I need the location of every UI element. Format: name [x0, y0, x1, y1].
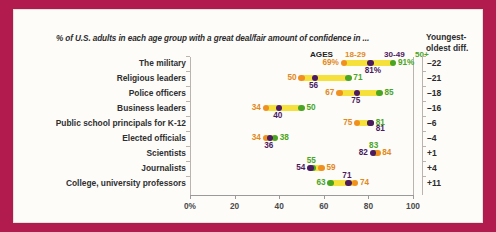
diff-tick — [422, 101, 426, 102]
y-tick — [186, 116, 190, 117]
value-label-18-29: 84 — [382, 148, 391, 157]
value-label-30-49: 81 — [376, 124, 385, 133]
chart-title: % of U.S. adults in each age group with … — [56, 33, 426, 44]
dot-18-29 — [298, 75, 304, 81]
diff-value: –6 — [427, 118, 436, 128]
chart-card: % of U.S. adults in each age group with … — [13, 9, 483, 223]
range-connector — [266, 105, 302, 110]
value-label-18-29: 34 — [239, 103, 261, 112]
category-label: Scientists — [146, 148, 186, 158]
category-label: Public school principals for K-12 — [56, 118, 186, 128]
diff-value: +4 — [427, 163, 437, 173]
poster-frame: % of U.S. adults in each age group with … — [0, 0, 496, 232]
value-label-18-29: 67 — [312, 88, 334, 97]
diff-tick — [422, 71, 426, 72]
category-label: Elected officials — [122, 133, 186, 143]
value-label-30-49: 54 — [283, 163, 305, 172]
x-tick-label: 0% — [170, 201, 210, 211]
diff-header-line1: Youngest- — [426, 32, 466, 42]
y-axis-right-line — [413, 57, 414, 195]
dot-18-29 — [318, 165, 324, 171]
diff-tick — [422, 86, 426, 87]
value-label-50plus: 83 — [369, 141, 378, 150]
range-connector — [302, 75, 349, 80]
x-tick — [190, 195, 191, 199]
diff-value: +11 — [427, 178, 441, 188]
category-label: Business leaders — [117, 103, 186, 113]
x-tick — [324, 195, 325, 199]
value-label-50plus: 91% — [398, 58, 414, 67]
dot-50plus — [345, 75, 351, 81]
diff-tick — [422, 131, 426, 132]
y-tick — [186, 86, 190, 87]
category-label: Journalists — [141, 163, 186, 173]
x-tick-label: 60 — [304, 201, 344, 211]
diff-value: –18 — [427, 88, 441, 98]
value-label-50plus: 71 — [353, 73, 362, 82]
diff-header-line2: oldest diff. — [426, 43, 468, 53]
value-label-30-49: 36 — [264, 141, 273, 150]
x-tick — [413, 195, 414, 199]
value-label-18-29: 75 — [330, 118, 352, 127]
value-label-18-29: 59 — [327, 163, 336, 172]
diff-tick — [422, 146, 426, 147]
value-label-30-49: 75 — [351, 96, 360, 105]
value-label-50plus: 55 — [307, 156, 316, 165]
x-tick-label: 20 — [215, 201, 255, 211]
value-label-18-29: 34 — [239, 133, 261, 142]
diff-tick — [422, 56, 426, 57]
diff-value: –4 — [427, 133, 436, 143]
dot-50plus — [327, 180, 333, 186]
value-label-30-49: 81% — [365, 66, 381, 75]
category-label: The military — [139, 58, 186, 68]
value-label-50plus: 50 — [307, 103, 316, 112]
dot-30-49 — [307, 165, 313, 171]
x-tick-label: 100 — [393, 201, 433, 211]
value-label-50plus: 38 — [280, 133, 289, 142]
y-tick — [186, 101, 190, 102]
x-tick-label: 40 — [259, 201, 299, 211]
diff-tick — [422, 176, 426, 177]
y-tick — [186, 161, 190, 162]
diff-tick — [422, 161, 426, 162]
value-label-50plus: 63 — [303, 178, 325, 187]
value-label-30-49: 71 — [342, 171, 351, 180]
diff-value: –22 — [427, 58, 441, 68]
value-label-18-29: 74 — [360, 178, 369, 187]
value-label-50plus: 85 — [385, 88, 394, 97]
x-tick-label: 80 — [348, 201, 388, 211]
diff-column-header: Youngest- oldest diff. — [426, 32, 496, 53]
diff-value: –16 — [427, 103, 441, 113]
diff-value: –21 — [427, 73, 441, 83]
y-tick — [186, 146, 190, 147]
value-label-30-49: 82 — [346, 148, 368, 157]
value-label-18-29: 69% — [317, 58, 339, 67]
category-label: College, university professors — [66, 178, 186, 188]
diff-value: +1 — [427, 148, 437, 158]
value-label-18-29: 50 — [275, 73, 297, 82]
dot-30-49 — [345, 180, 351, 186]
y-tick — [186, 176, 190, 177]
x-axis-line — [190, 195, 414, 196]
dot-30-49 — [367, 120, 373, 126]
category-label: Religious leaders — [117, 73, 186, 83]
x-tick — [279, 195, 280, 199]
category-label: Police officers — [129, 88, 186, 98]
y-tick — [186, 71, 190, 72]
dot-50plus — [298, 105, 304, 111]
x-tick — [368, 195, 369, 199]
dot-18-29 — [336, 90, 342, 96]
y-tick — [186, 131, 190, 132]
dot-50plus — [376, 90, 382, 96]
x-tick — [235, 195, 236, 199]
diff-tick — [422, 116, 426, 117]
y-tick — [186, 56, 190, 57]
diff-axis-line — [422, 57, 423, 195]
value-label-30-49: 40 — [273, 111, 282, 120]
